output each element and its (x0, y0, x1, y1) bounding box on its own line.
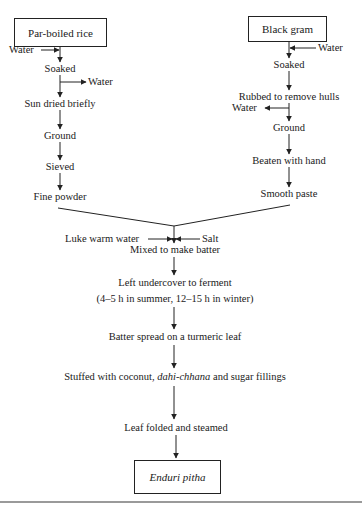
start-box-parboiled-rice: Par-boiled rice (14, 18, 107, 47)
start-label-black-gram: Black gram (262, 23, 313, 35)
merge-step-mixed: Mixed to make batter (130, 244, 220, 256)
left-step-soaked: Soaked (45, 63, 76, 75)
left-step-sieved: Sieved (46, 161, 75, 173)
right-step-soaked: Soaked (274, 59, 305, 71)
right-water-output: Water (232, 102, 257, 114)
left-step-sun-dried: Sun dried briefly (24, 98, 95, 110)
end-label-enduri-pitha: Enduri pitha (150, 471, 206, 483)
left-step-ground: Ground (44, 130, 76, 142)
step-stuffed: Stuffed with coconut, dahi-chhana and su… (64, 371, 286, 383)
right-step-beaten: Beaten with hand (252, 155, 325, 167)
step-batter-spread: Batter spread on a turmeric leaf (109, 331, 242, 343)
start-box-black-gram: Black gram (248, 16, 327, 42)
right-step-ground: Ground (273, 122, 305, 134)
right-step-smooth-paste: Smooth paste (261, 188, 318, 200)
step-leaf-folded: Leaf folded and steamed (124, 422, 228, 434)
left-step-fine-powder: Fine powder (34, 191, 87, 203)
step-ferment: Left undercover to ferment (118, 277, 231, 289)
start-label-parboiled-rice: Par-boiled rice (28, 27, 93, 39)
left-water-output: Water (88, 76, 113, 88)
left-water-input: Water (9, 44, 34, 56)
bottom-divider (0, 501, 362, 503)
stuffed-text-italic: dahi-chhana (157, 371, 210, 382)
step-ferment-note: (4–5 h in summer, 12–15 h in winter) (96, 293, 253, 305)
right-water-input: Water (318, 42, 343, 54)
merge-input-luke-warm-water: Luke warm water (65, 233, 139, 245)
end-box-enduri-pitha: Enduri pitha (134, 460, 221, 494)
stuffed-text-post: and sugar fillings (210, 371, 286, 382)
stuffed-text-pre: Stuffed with coconut, (64, 371, 157, 382)
